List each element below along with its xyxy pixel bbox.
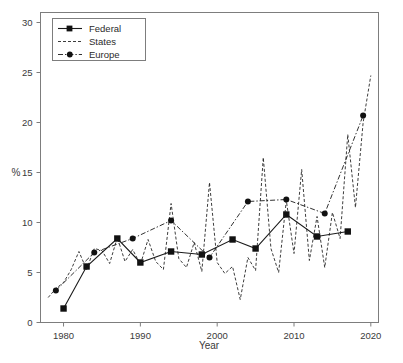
legend-swatch-europe-marker bbox=[67, 52, 73, 58]
y-tick-label: 0 bbox=[27, 317, 32, 328]
x-tick-label: 2020 bbox=[360, 330, 381, 341]
data-point-federal bbox=[137, 259, 143, 265]
data-point-europe bbox=[245, 199, 251, 205]
x-tick-label: 1990 bbox=[130, 330, 151, 341]
legend-label-europe: Europe bbox=[89, 49, 120, 60]
data-point-federal bbox=[229, 236, 235, 242]
legend-label-states: States bbox=[89, 36, 116, 47]
data-point-europe bbox=[283, 197, 289, 203]
data-point-federal bbox=[252, 245, 258, 251]
data-point-europe bbox=[168, 218, 174, 224]
x-tick-label: 1980 bbox=[53, 330, 74, 341]
line-chart: 051015202530 19801990200020102020 Year %… bbox=[0, 0, 403, 363]
data-point-federal bbox=[60, 305, 66, 311]
data-point-europe bbox=[360, 113, 366, 119]
data-point-europe bbox=[207, 255, 213, 261]
y-tick-label: 10 bbox=[22, 217, 33, 228]
data-point-federal bbox=[345, 228, 351, 234]
data-point-federal bbox=[168, 248, 174, 254]
data-point-federal bbox=[199, 251, 205, 257]
legend-label-federal: Federal bbox=[89, 23, 121, 34]
y-tick-label: 20 bbox=[22, 117, 33, 128]
x-tick-label: 2010 bbox=[283, 330, 304, 341]
data-point-europe bbox=[53, 288, 59, 294]
data-point-europe bbox=[91, 250, 97, 256]
chart-figure: 051015202530 19801990200020102020 Year %… bbox=[0, 0, 403, 363]
chart-legend: Federal States Europe bbox=[53, 19, 146, 61]
legend-swatch-federal-marker bbox=[67, 26, 73, 32]
y-tick-label: 15 bbox=[22, 167, 33, 178]
y-tick-label: 25 bbox=[22, 67, 33, 78]
y-axis-title: % bbox=[12, 167, 21, 178]
y-tick-label: 5 bbox=[27, 267, 32, 278]
data-point-federal bbox=[314, 233, 320, 239]
x-axis-title: Year bbox=[199, 340, 220, 351]
data-point-europe bbox=[322, 211, 328, 217]
x-tick-label: 2000 bbox=[207, 330, 228, 341]
data-point-europe bbox=[130, 236, 136, 242]
y-tick-label: 30 bbox=[22, 17, 33, 28]
